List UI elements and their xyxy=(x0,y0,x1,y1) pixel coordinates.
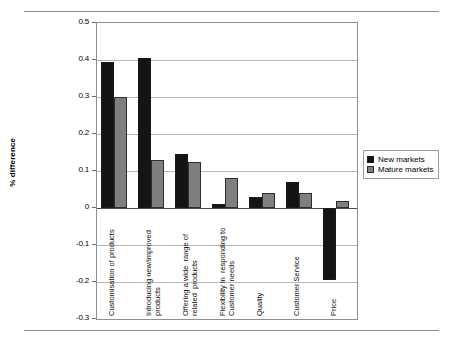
legend-item-new-markets[interactable]: New markets xyxy=(367,155,434,164)
x-axis-category-label: Price xyxy=(329,211,338,316)
bar-new-markets xyxy=(249,197,262,208)
y-axis-tick-label: 0.1 xyxy=(78,166,89,174)
bar-new-markets xyxy=(138,58,151,208)
y-axis-tick-label: 0 xyxy=(85,203,89,211)
y-axis-tick-label: 0.5 xyxy=(78,18,89,26)
legend-item-mature-markets[interactable]: Mature markets xyxy=(367,165,434,174)
x-axis-category-label: Quality xyxy=(255,211,264,316)
y-axis-title: % difference xyxy=(8,138,17,187)
chart-legend: New markets Mature markets xyxy=(363,150,439,179)
y-axis-tick-label: 0.2 xyxy=(78,129,89,137)
chart-figure: % difference 0.50.40.30.20.10-0.1-0.2-0.… xyxy=(0,0,461,341)
bar-mature-markets xyxy=(225,178,238,208)
y-axis-tick-label: 0.3 xyxy=(78,92,89,100)
legend-swatch-mature-markets-icon xyxy=(367,166,374,173)
y-axis-tick-label: -0.2 xyxy=(76,277,89,285)
bar-mature-markets xyxy=(114,97,127,208)
bottom-divider-rule xyxy=(24,330,439,331)
legend-swatch-new-markets-icon xyxy=(367,156,374,163)
bar-mature-markets xyxy=(336,201,349,208)
bar-mature-markets xyxy=(299,193,312,208)
x-axis-category-label: Customer Service xyxy=(292,211,301,316)
y-axis: 0.50.40.30.20.10-0.1-0.2-0.3 xyxy=(60,22,96,320)
bar-mature-markets xyxy=(151,160,164,208)
bar-new-markets xyxy=(101,62,114,208)
top-divider-rule xyxy=(24,11,439,12)
plot-area: Customisation of productsIntroducing new… xyxy=(96,22,358,320)
legend-label-mature-markets: Mature markets xyxy=(378,165,434,174)
x-axis-category-label: Introducing new/improved products xyxy=(144,211,162,316)
gridline xyxy=(97,97,357,98)
zero-baseline xyxy=(97,208,357,209)
y-axis-tick-label: -0.3 xyxy=(76,314,89,322)
x-axis-category-label: Offering a wide range of related product… xyxy=(181,211,199,316)
x-axis-category-label: Flexibility in responding to Customer ne… xyxy=(218,211,236,316)
y-axis-tick-label: -0.1 xyxy=(76,240,89,248)
y-axis-tick-label: 0.4 xyxy=(78,55,89,63)
gridline xyxy=(97,134,357,135)
bar-mature-markets xyxy=(188,162,201,208)
gridline xyxy=(97,60,357,61)
legend-label-new-markets: New markets xyxy=(378,155,425,164)
bar-mature-markets xyxy=(262,193,275,208)
bar-new-markets xyxy=(175,154,188,208)
bar-new-markets xyxy=(212,204,225,208)
gridline xyxy=(97,171,357,172)
bar-new-markets xyxy=(286,182,299,208)
x-axis-category-label: Customisation of products xyxy=(107,211,116,316)
